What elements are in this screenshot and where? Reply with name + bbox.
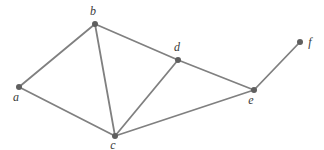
edge-d-e — [178, 60, 254, 90]
edge-e-f — [254, 42, 300, 90]
node-label-b: b — [90, 4, 96, 18]
edge-a-b — [19, 24, 95, 87]
edge-b-c — [95, 24, 115, 136]
graph-figure: abcdef — [0, 0, 324, 150]
edge-b-d — [95, 24, 178, 60]
node-d — [175, 57, 181, 63]
node-b — [92, 21, 98, 27]
edge-a-c — [19, 87, 115, 136]
node-label-a: a — [13, 90, 19, 104]
node-label-c: c — [110, 138, 116, 150]
node-label-e: e — [248, 93, 254, 107]
node-label-f: f — [308, 35, 313, 49]
edges-layer — [19, 24, 300, 136]
edge-c-d — [115, 60, 178, 136]
edge-c-e — [115, 90, 254, 136]
node-f — [297, 39, 303, 45]
graph-canvas: abcdef — [0, 0, 324, 150]
node-label-d: d — [174, 40, 181, 54]
